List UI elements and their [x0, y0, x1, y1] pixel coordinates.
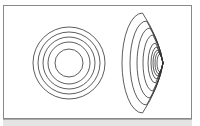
concentric-circle	[33, 27, 105, 99]
concentric-circle	[38, 32, 100, 94]
nested-ellipse	[137, 28, 163, 98]
concentric-circle	[43, 37, 95, 89]
diagram-figure	[0, 0, 200, 126]
concentric-circle	[55, 49, 83, 77]
nested-ellipse	[148, 43, 163, 83]
nested-ellipse	[130, 21, 163, 105]
concentric-circle	[48, 42, 90, 84]
